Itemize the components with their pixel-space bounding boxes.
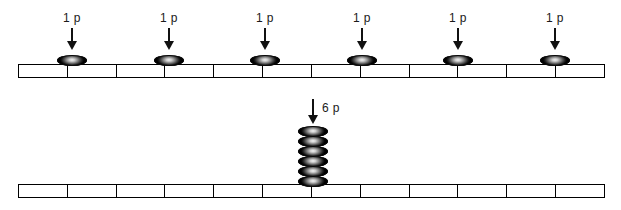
arrow-shaft <box>264 28 266 42</box>
bar-segment <box>361 65 410 77</box>
coin-number-line-diagram: 1 p1 p1 p1 p1 p1 p6 p <box>0 0 621 210</box>
bar-segment <box>19 65 68 77</box>
arrow-head <box>357 41 367 50</box>
bar-segment <box>507 65 556 77</box>
arrow-shaft <box>457 28 459 42</box>
down-arrow-icon <box>67 28 78 50</box>
coin-value-label: 1 p <box>353 11 371 25</box>
arrow-shaft <box>312 99 314 116</box>
number-line-bar <box>18 64 605 78</box>
bar-segment <box>556 185 604 197</box>
bar-segment <box>165 185 214 197</box>
coin <box>443 55 473 66</box>
arrow-shaft <box>361 28 363 42</box>
arrow-head <box>260 41 270 50</box>
bar-segment <box>410 65 459 77</box>
coin <box>298 176 328 187</box>
coin <box>57 55 87 66</box>
down-arrow-icon <box>260 28 271 50</box>
arrow-head <box>308 115 318 124</box>
arrow-head <box>164 41 174 50</box>
bar-segment <box>556 65 604 77</box>
bar-segment <box>263 65 312 77</box>
down-arrow-icon <box>308 99 319 124</box>
arrow-head <box>453 41 463 50</box>
coin-value-label: 6 p <box>322 101 340 115</box>
bar-segment <box>68 65 117 77</box>
coin <box>540 55 570 66</box>
down-arrow-icon <box>550 28 561 50</box>
arrow-head <box>67 41 77 50</box>
bar-segment <box>117 185 166 197</box>
bar-segment <box>507 185 556 197</box>
coin-value-label: 1 p <box>256 11 274 25</box>
coin-value-label: 1 p <box>449 11 467 25</box>
down-arrow-icon <box>164 28 175 50</box>
coin-value-label: 1 p <box>160 11 178 25</box>
arrow-shaft <box>168 28 170 42</box>
coin-value-label: 1 p <box>63 11 81 25</box>
coin <box>347 55 377 66</box>
bar-segment <box>312 65 361 77</box>
bar-segment <box>410 185 459 197</box>
coin <box>154 55 184 66</box>
down-arrow-icon <box>357 28 368 50</box>
bar-segment <box>214 65 263 77</box>
bar-segment <box>214 185 263 197</box>
coin-value-label: 1 p <box>546 11 564 25</box>
bar-segment <box>458 185 507 197</box>
bar-segment <box>68 185 117 197</box>
bar-segment <box>458 65 507 77</box>
coin-stack <box>298 126 328 188</box>
bar-segment <box>361 185 410 197</box>
arrow-shaft <box>554 28 556 42</box>
bar-segment <box>117 65 166 77</box>
coin <box>250 55 280 66</box>
arrow-shaft <box>71 28 73 42</box>
arrow-head <box>550 41 560 50</box>
down-arrow-icon <box>453 28 464 50</box>
bar-segment <box>165 65 214 77</box>
bar-segment <box>19 185 68 197</box>
